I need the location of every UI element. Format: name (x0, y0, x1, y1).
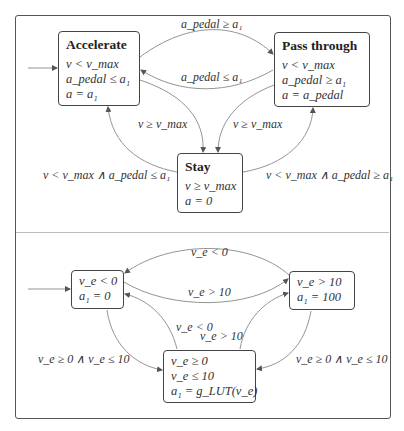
edge-label: v_e > 10 (188, 285, 231, 300)
state-condition: a_pedal ≤ a₁ (66, 72, 132, 87)
edge-accelerate-to-stay (140, 80, 203, 152)
edge-label: v < v_max ∧ a_pedal ≥ a₁ (266, 168, 393, 183)
edge-lut-to-negative (125, 294, 177, 349)
state-condition: a₁ = 0 (79, 289, 116, 304)
state-condition: a₁ = 100 (297, 290, 347, 305)
state-condition: v < v_max (66, 57, 132, 72)
state-condition: v_e > 10 (297, 275, 347, 290)
edge-label: v < v_max ∧ a_pedal ≤ a₁ (43, 168, 170, 183)
edge-lut-to-high (240, 293, 288, 349)
state-title: Pass through (282, 38, 362, 53)
state-machine-figure: Accelerate v < v_max a_pedal ≤ a₁ a = a₁… (0, 0, 404, 431)
state-condition: v ≥ v_max (185, 179, 235, 194)
edge-accelerate-to-pass (140, 30, 273, 57)
edge-label: v_e > 10 (200, 329, 243, 344)
edge-label: v ≥ v_max (233, 117, 282, 132)
state-ve-lut: v_e ≥ 0 v_e ≤ 10 a₁ = g_LUT(v_e) (163, 350, 256, 403)
state-condition: v_e ≥ 0 (171, 354, 248, 369)
state-accelerate: Accelerate v < v_max a_pedal ≤ a₁ a = a₁ (58, 31, 140, 106)
state-ve-negative: v_e < 0 a₁ = 0 (71, 270, 124, 309)
state-condition: a = a_pedal (282, 88, 362, 103)
edge-label: a_pedal ≥ a₁ (181, 17, 242, 32)
edge-label: v_e < 0 (191, 245, 228, 260)
state-condition: v_e < 0 (79, 274, 116, 289)
state-condition: a = 0 (185, 194, 235, 209)
edge-label: a_pedal ≤ a₁ (181, 70, 242, 85)
state-stay: Stay v ≥ v_max a = 0 (177, 153, 243, 213)
edge-label: v_e ≥ 0 ∧ v_e ≤ 10 (296, 352, 387, 367)
state-condition: v < v_max (282, 58, 362, 73)
state-title: Accelerate (66, 37, 132, 52)
state-pass-through: Pass through v < v_max a_pedal ≥ a₁ a = … (274, 32, 370, 107)
state-condition: v_e ≤ 10 (171, 369, 248, 384)
state-ve-high: v_e > 10 a₁ = 100 (289, 271, 355, 310)
edge-label: v ≥ v_max (138, 117, 187, 132)
state-condition: a_pedal ≥ a₁ (282, 73, 362, 88)
state-condition: a = a₁ (66, 87, 132, 102)
edge-label: v_e ≥ 0 ∧ v_e ≤ 10 (38, 352, 129, 367)
state-condition: a₁ = g_LUT(v_e) (171, 384, 248, 399)
state-title: Stay (185, 159, 235, 174)
